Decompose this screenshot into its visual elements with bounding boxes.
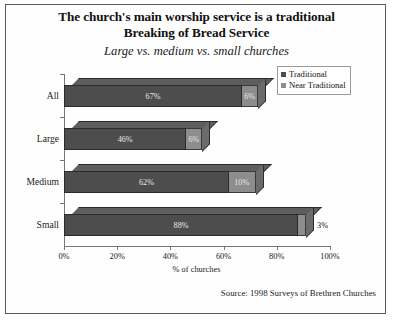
legend-swatch-icon-traditional bbox=[281, 72, 286, 77]
x-axis-title: % of churches bbox=[0, 265, 393, 274]
x-axis-tick-label: 60% bbox=[216, 252, 231, 261]
bar-segment-traditional: 88% bbox=[64, 214, 298, 236]
bar-value-label-traditional: 67% bbox=[65, 92, 241, 101]
chart-subtitle: Large vs. medium vs. small churches bbox=[0, 44, 393, 59]
bar-segment-near-traditional: 6% bbox=[186, 128, 202, 150]
bar-value-label-near-traditional: 3% bbox=[317, 221, 328, 230]
bar-segment-near-traditional: 10% bbox=[229, 171, 256, 193]
x-axis-tick-label: 0% bbox=[58, 252, 69, 261]
bar-front-face: 88% bbox=[64, 214, 306, 236]
legend-swatch-icon-near-traditional bbox=[281, 83, 286, 88]
bar-segment-near-traditional: 6% bbox=[242, 85, 258, 107]
x-axis-tick bbox=[224, 246, 225, 250]
x-axis-tick-label: 40% bbox=[163, 252, 178, 261]
x-axis-tick-label: 100% bbox=[320, 252, 340, 261]
y-axis-label-small: Small bbox=[37, 219, 59, 230]
x-axis-tick bbox=[64, 246, 65, 250]
x-axis-tick bbox=[330, 246, 331, 250]
y-axis-tick bbox=[60, 117, 64, 118]
bar-value-label-traditional: 46% bbox=[65, 135, 185, 144]
bar-segment-traditional: 62% bbox=[64, 171, 229, 193]
bar-segment-traditional: 46% bbox=[64, 128, 186, 150]
x-axis-tick bbox=[117, 246, 118, 250]
bar-value-label-traditional: 62% bbox=[65, 178, 228, 187]
bar-value-label-near-traditional: 10% bbox=[229, 178, 255, 187]
chart-title: The church's main worship service is a t… bbox=[0, 9, 393, 40]
source-note: Source: 1998 Surveys of Brethren Churche… bbox=[221, 288, 376, 298]
y-axis-label-all: All bbox=[47, 90, 59, 101]
legend-label-near-traditional: Near Traditional bbox=[289, 80, 346, 91]
y-axis-tick bbox=[60, 203, 64, 204]
bar-side-face bbox=[202, 121, 210, 152]
y-axis-tick bbox=[60, 74, 64, 75]
legend-label-traditional: Traditional bbox=[289, 69, 327, 80]
bar-front-face: 67%6% bbox=[64, 85, 258, 107]
chart-title-line-1: The church's main worship service is a t… bbox=[0, 9, 393, 25]
bar-front-face: 46%6% bbox=[64, 128, 202, 150]
legend-item-traditional: Traditional bbox=[281, 69, 346, 80]
x-axis-tick bbox=[277, 246, 278, 250]
x-axis-line bbox=[64, 246, 331, 247]
x-axis-tick-label: 80% bbox=[269, 252, 284, 261]
x-axis-tick-label: 20% bbox=[110, 252, 125, 261]
y-axis-category-labels: AllLargeMediumSmall bbox=[0, 74, 59, 246]
y-axis-label-medium: Medium bbox=[26, 176, 59, 187]
bar-value-label-traditional: 88% bbox=[65, 221, 297, 230]
chart-title-line-2: Breaking of Bread Service bbox=[0, 25, 393, 41]
bar-value-label-near-traditional: 6% bbox=[242, 92, 257, 101]
bar-segment-traditional: 67% bbox=[64, 85, 242, 107]
bar-segment-near-traditional bbox=[298, 214, 306, 236]
bar-value-label-near-traditional: 6% bbox=[186, 135, 201, 144]
bar-front-face: 62%10% bbox=[64, 171, 256, 193]
chart-legend: Traditional Near Traditional bbox=[277, 66, 351, 95]
plot-area: 67%6%46%6%62%10%3%88% bbox=[64, 74, 330, 246]
chart-page: The church's main worship service is a t… bbox=[0, 0, 393, 321]
y-axis-tick bbox=[60, 160, 64, 161]
y-axis-label-large: Large bbox=[37, 133, 59, 144]
legend-item-near-traditional: Near Traditional bbox=[281, 80, 346, 91]
x-axis-tick bbox=[170, 246, 171, 250]
